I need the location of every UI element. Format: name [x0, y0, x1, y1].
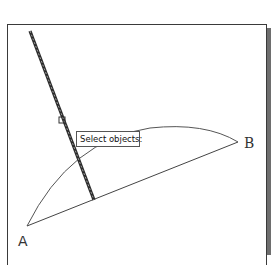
point-label-b: B: [244, 136, 254, 150]
chord-line-entity[interactable]: [27, 142, 238, 226]
command-prompt-tooltip: Select objects:: [76, 131, 140, 147]
point-label-a: A: [18, 234, 28, 248]
